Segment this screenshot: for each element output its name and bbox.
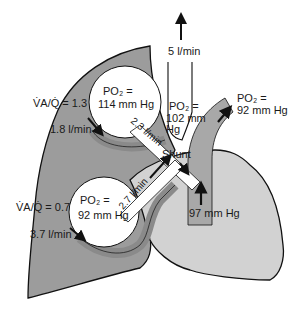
- upper-flow-label: 1.8 l/min: [50, 123, 92, 135]
- mixed-venous-po2-unit: Hg: [166, 123, 180, 135]
- ventricle-pressure-label: 97 mm Hg: [189, 207, 240, 219]
- lung-heart-diagram: V̇A/Q̇ = 1.3 1.8 l/min PO₂ = 114 mm Hg V…: [0, 0, 294, 317]
- lower-flow-label: 3.7 l/min: [30, 228, 72, 240]
- lower-va-q-label: V̇A/Q̇ = 0.7: [16, 201, 70, 213]
- upper-va-q-label: V̇A/Q̇ = 1.3: [33, 97, 87, 109]
- aorta-po2-label: PO₂ =: [237, 92, 267, 104]
- shunt-label: Shunt: [162, 148, 191, 160]
- lower-po2-label: PO₂ =: [80, 194, 110, 206]
- aorta-po2-value: 92 mm Hg: [237, 104, 288, 116]
- mixed-venous-po2-label: PO₂ =: [169, 100, 199, 112]
- lower-po2-value: 92 mm Hg: [78, 209, 129, 221]
- upper-po2-value: 114 mm Hg: [98, 98, 154, 110]
- upper-po2-label: PO₂ =: [103, 85, 133, 97]
- cardiac-output-label: 5 l/min: [168, 45, 200, 57]
